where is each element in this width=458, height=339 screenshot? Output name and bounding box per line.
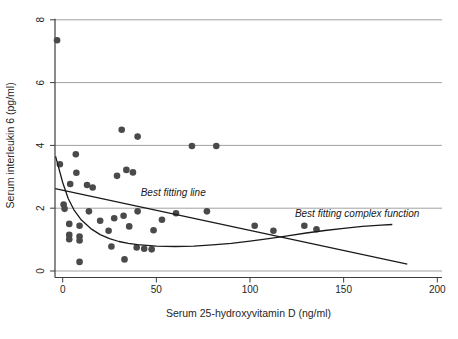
axis-titles: Serum 25-hydroxyvitamin D (ng/ml) Serum … [4,82,331,319]
y-tick-label-0: 0 [35,268,46,274]
data-point [130,169,137,176]
y-tick-label-8: 8 [35,17,46,23]
x-tick-label-50: 50 [151,284,163,295]
tick-labels: 05010015020002468 [35,17,446,295]
data-point [114,173,121,180]
data-point [213,143,220,150]
data-point [73,151,80,158]
x-axis-title: Serum 25-hydroxyvitamin D (ng/ml) [166,307,331,319]
data-point [120,212,127,219]
x-tick-label-100: 100 [242,284,259,295]
data-point [121,256,128,263]
data-point [76,259,83,266]
best-fitting-complex-function [56,156,393,246]
data-point [204,208,211,215]
data-point [66,221,73,228]
y-axis-title: Serum interleukin 6 (pg/ml) [4,82,16,208]
data-point [123,167,130,174]
y-tick-label-2: 2 [35,205,46,211]
data-point [111,215,118,222]
data-point [301,222,308,229]
data-point [141,245,148,252]
data-point [159,217,166,224]
data-point [61,206,68,213]
data-point [108,243,115,250]
data-point [134,133,141,140]
data-point [84,182,91,189]
data-point [118,126,125,133]
data-point [189,143,196,150]
data-point [76,222,83,229]
data-point [150,227,157,234]
x-tick-label-200: 200 [429,284,446,295]
best-fitting-line [55,189,407,264]
best-fitting-line-label: Best fitting line [141,187,206,198]
data-point [97,217,104,224]
data-point [134,208,141,215]
data-point [73,169,80,176]
y-tick-label-6: 6 [35,79,46,85]
data-point [76,237,83,244]
data-point [86,208,93,215]
data-point [148,246,155,253]
y-tick-label-4: 4 [35,142,46,148]
x-tick-label-150: 150 [335,284,352,295]
best-fitting-complex-function-label: Best fitting complex function [295,208,420,219]
scatter-figure: 05010015020002468 Serum 25-hydroxyvitami… [0,0,458,339]
data-point [126,223,133,230]
annotations: Best fitting line Best fitting complex f… [141,187,420,219]
data-point [67,181,74,188]
data-point [105,228,112,235]
data-point [66,236,73,243]
gridlines [55,20,442,271]
data-point [251,222,258,229]
x-tick-label-0: 0 [60,284,66,295]
data-point [54,37,61,44]
data-point [270,228,277,235]
data-point [89,184,96,191]
scatter-plot: 05010015020002468 Serum 25-hydroxyvitami… [0,0,458,339]
axes [50,19,442,283]
